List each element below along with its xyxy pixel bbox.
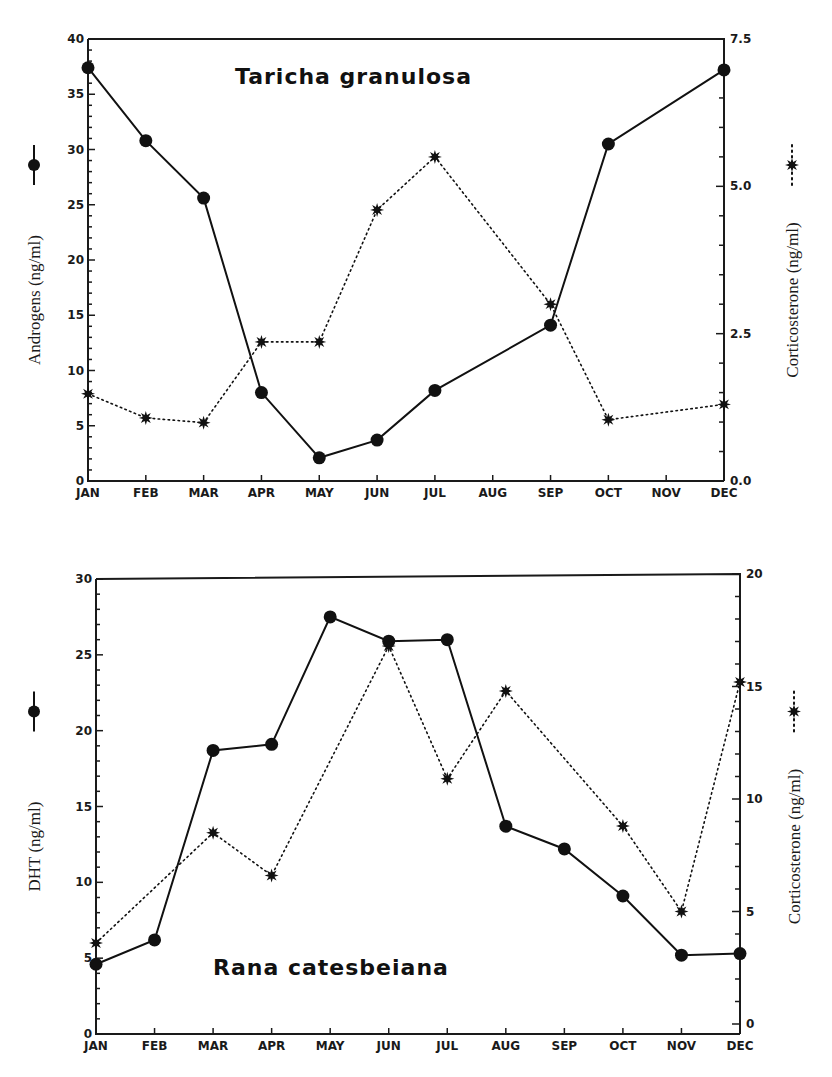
circle-marker-icon xyxy=(265,738,278,751)
legend-star-dotted-icon xyxy=(787,692,801,732)
left-tick-label: 30 xyxy=(67,143,84,157)
circle-marker-icon xyxy=(558,842,571,855)
left-tick-label: 15 xyxy=(67,308,84,322)
chart-taricha-granulosa: 05101520253035400.02.55.07.5JANFEBMARAPR… xyxy=(25,32,802,500)
left-tick-label: 10 xyxy=(67,364,84,378)
left-axis-label: DHT (ng/ml) xyxy=(25,802,44,892)
left-tick-label: 10 xyxy=(75,875,92,889)
left-tick-label: 35 xyxy=(67,87,84,101)
month-label: SEP xyxy=(538,486,564,500)
legend-star-dotted-icon xyxy=(785,145,799,185)
month-label: DEC xyxy=(711,486,738,500)
month-label: JUN xyxy=(376,1039,401,1053)
star-marker-icon xyxy=(312,335,326,349)
circle-marker-icon xyxy=(616,889,629,902)
star-marker-icon xyxy=(616,819,630,833)
circle-marker-icon xyxy=(428,384,441,397)
star-marker-icon xyxy=(206,826,220,840)
month-label: JUN xyxy=(364,486,389,500)
month-label: APR xyxy=(248,486,275,500)
star-marker-icon xyxy=(675,905,689,919)
star-marker-icon xyxy=(601,413,615,427)
month-label: AUG xyxy=(478,486,507,500)
right-tick-label: 0 xyxy=(746,1017,754,1031)
circle-marker-icon xyxy=(602,137,615,150)
month-label: MAR xyxy=(188,486,218,500)
star-marker-icon xyxy=(717,397,731,411)
month-label: JUL xyxy=(423,486,446,500)
month-label: MAY xyxy=(316,1039,345,1053)
month-label: SEP xyxy=(552,1039,578,1053)
right-axis-label: Corticosterone (ng/ml) xyxy=(783,222,802,377)
star-marker-icon xyxy=(139,411,153,425)
month-label: OCT xyxy=(595,486,623,500)
right-tick-label: 2.5 xyxy=(730,327,751,341)
left-tick-label: 40 xyxy=(67,32,84,46)
legend-circle-solid-icon xyxy=(28,692,40,732)
right-axis-label: Corticosterone (ng/ml) xyxy=(785,769,804,924)
circle-marker-icon xyxy=(499,820,512,833)
circle-marker-icon xyxy=(734,947,747,960)
circle-marker-icon xyxy=(371,434,384,447)
star-marker-icon xyxy=(499,684,513,698)
star-marker-icon xyxy=(197,416,211,430)
star-marker-icon xyxy=(733,675,747,689)
series-androgens xyxy=(82,61,731,464)
circle-marker-icon xyxy=(82,61,95,74)
left-tick-label: 25 xyxy=(75,648,92,662)
right-tick-label: 5 xyxy=(746,905,754,919)
circle-marker-icon xyxy=(441,633,454,646)
figure: 05101520253035400.02.55.07.5JANFEBMARAPR… xyxy=(0,0,832,1077)
chart-title: Rana catesbeiana xyxy=(213,955,449,980)
circle-marker-icon xyxy=(90,958,103,971)
month-label: FEB xyxy=(142,1039,168,1053)
left-tick-label: 30 xyxy=(75,572,92,586)
circle-marker-icon xyxy=(197,192,210,205)
circle-marker-icon xyxy=(139,134,152,147)
right-tick-label: 10 xyxy=(746,792,763,806)
star-marker-icon xyxy=(265,869,279,883)
circle-marker-icon xyxy=(544,319,557,332)
circle-marker-icon xyxy=(255,386,268,399)
month-label: APR xyxy=(258,1039,285,1053)
right-tick-label: 20 xyxy=(746,567,763,581)
chart-rana-catesbeiana: 05101520253005101520JANFEBMARAPRMAYJUNJU… xyxy=(25,567,804,1053)
series-corticosterone xyxy=(81,150,731,430)
left-axis-label: Androgens (ng/ml) xyxy=(25,235,44,365)
circle-marker-icon xyxy=(324,610,337,623)
star-marker-icon xyxy=(255,335,269,349)
legend-circle-solid-icon xyxy=(28,145,40,185)
star-marker-icon xyxy=(81,387,95,401)
star-marker-icon xyxy=(370,203,384,217)
circle-marker-icon xyxy=(148,933,161,946)
star-marker-icon xyxy=(440,772,454,786)
left-tick-label: 20 xyxy=(67,253,84,267)
chart-title: Taricha granulosa xyxy=(235,64,472,89)
circle-marker-icon xyxy=(207,744,220,757)
month-label: JUL xyxy=(435,1039,458,1053)
right-tick-label: 15 xyxy=(746,680,763,694)
left-tick-label: 20 xyxy=(75,724,92,738)
month-label: NOV xyxy=(667,1039,697,1053)
month-label: OCT xyxy=(609,1039,637,1053)
star-marker-icon xyxy=(787,705,801,719)
circle-marker-icon xyxy=(313,451,326,464)
month-label: JAN xyxy=(83,1039,108,1053)
circle-marker-icon xyxy=(675,949,688,962)
star-marker-icon xyxy=(428,150,442,164)
star-marker-icon xyxy=(785,158,799,172)
month-label: NOV xyxy=(652,486,682,500)
month-label: MAR xyxy=(198,1039,228,1053)
circle-marker-icon xyxy=(718,63,731,76)
series-corticosterone xyxy=(89,639,747,950)
month-label: DEC xyxy=(727,1039,754,1053)
month-label: AUG xyxy=(492,1039,521,1053)
left-tick-label: 15 xyxy=(75,800,92,814)
series-dht xyxy=(90,610,747,970)
right-tick-label: 5.0 xyxy=(730,179,751,193)
month-label: MAY xyxy=(305,486,334,500)
left-tick-label: 5 xyxy=(76,419,84,433)
star-marker-icon xyxy=(89,936,103,950)
month-label: JAN xyxy=(75,486,100,500)
left-tick-label: 25 xyxy=(67,198,84,212)
